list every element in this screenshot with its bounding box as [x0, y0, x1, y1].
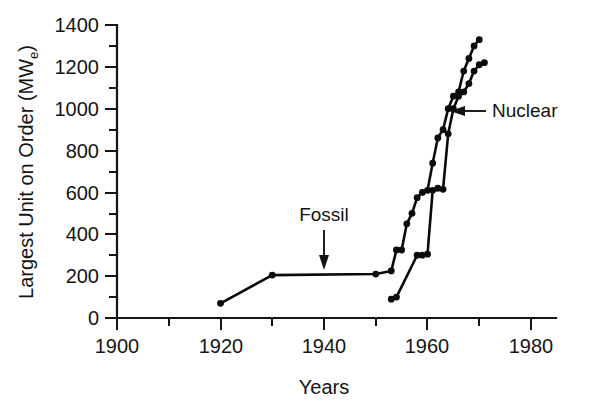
series-line — [221, 40, 480, 304]
y-tick-label: 0 — [88, 307, 99, 329]
y-axis-ticks — [105, 25, 117, 318]
data-point — [466, 55, 473, 62]
data-point — [445, 130, 452, 137]
x-axis-ticks — [117, 318, 531, 330]
y-tick-label: 1400 — [55, 14, 100, 36]
data-point — [217, 300, 224, 307]
x-tick-label: 1920 — [199, 335, 244, 357]
data-point — [434, 135, 441, 142]
data-point — [476, 36, 483, 43]
data-point — [471, 43, 478, 50]
y-axis-title: Largest Unit on Order (MWe) — [15, 45, 41, 299]
data-point — [471, 68, 478, 75]
y-axis-title-main: Largest Unit on Order (MW — [15, 59, 37, 299]
annotation-fossil-arrowhead — [319, 255, 329, 270]
svg-text:Largest Unit on Order (MWe): Largest Unit on Order (MWe) — [15, 45, 41, 299]
x-axis-tick-labels: 1900 1920 1940 1960 1980 — [95, 335, 554, 357]
data-point — [481, 59, 488, 66]
data-point — [372, 271, 379, 278]
y-tick-label: 200 — [66, 265, 99, 287]
y-axis-title-suffix: ) — [15, 45, 37, 52]
x-tick-label: 1980 — [509, 335, 554, 357]
y-tick-label: 1200 — [55, 56, 100, 78]
y-tick-label: 800 — [66, 140, 99, 162]
x-axis-title: Years — [299, 376, 349, 398]
chart-figure: 0 200 400 600 800 1000 1200 1400 1900 19… — [0, 0, 592, 414]
y-tick-label: 400 — [66, 223, 99, 245]
y-axis-tick-labels: 0 200 400 600 800 1000 1200 1400 — [55, 14, 100, 329]
data-point — [403, 220, 410, 227]
annotation-nuclear-label: Nuclear — [492, 100, 558, 121]
data-point — [466, 80, 473, 87]
y-tick-label: 1000 — [55, 98, 100, 120]
data-point — [398, 247, 405, 254]
x-tick-label: 1960 — [405, 335, 450, 357]
data-point — [460, 68, 467, 75]
data-point — [440, 186, 447, 193]
data-point — [429, 160, 436, 167]
data-series-layer — [217, 36, 488, 307]
annotation-fossil: Fossil — [299, 204, 349, 270]
series-line — [391, 63, 484, 299]
data-point — [393, 294, 400, 301]
y-tick-label: 600 — [66, 182, 99, 204]
series-nuclear — [388, 59, 488, 302]
series-fossil — [217, 36, 483, 307]
x-tick-label: 1900 — [95, 335, 140, 357]
y-axis-title-subscript: e — [26, 52, 41, 59]
annotation-fossil-label: Fossil — [299, 204, 349, 225]
data-point — [460, 89, 467, 96]
data-point — [414, 194, 421, 201]
data-point — [388, 268, 395, 275]
data-point — [269, 272, 276, 279]
data-point — [424, 251, 431, 258]
annotation-nuclear: Nuclear — [450, 100, 558, 121]
data-point — [409, 210, 416, 217]
x-tick-label: 1940 — [302, 335, 347, 357]
